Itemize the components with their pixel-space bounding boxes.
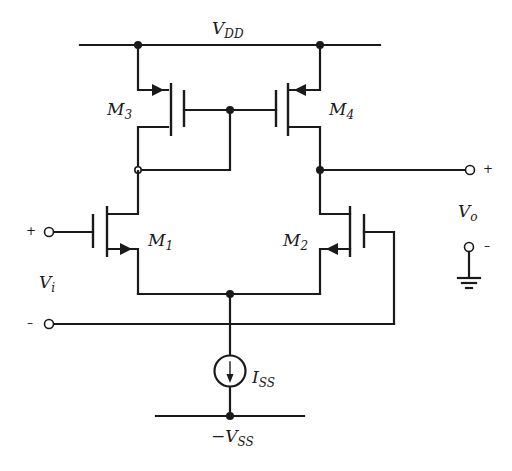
label-vi: Vi xyxy=(39,274,55,294)
sign-vo-plus: + xyxy=(483,163,493,175)
sign-vi-minus: – xyxy=(27,317,33,329)
ground-icon xyxy=(458,243,480,289)
vi-plus-terminal xyxy=(45,228,54,237)
circuit-diagram: VDD M3 M4 M1 M2 Vi Vo ISS −VSS + – + – xyxy=(0,0,512,471)
transistor-m3 xyxy=(138,45,276,171)
label-iss: ISS xyxy=(252,369,275,389)
label-vo: Vo xyxy=(458,203,478,223)
label-vss: −VSS xyxy=(211,428,254,448)
label-m4: M4 xyxy=(329,101,354,121)
label-m1: M1 xyxy=(148,232,173,252)
transistor-m2 xyxy=(320,170,394,324)
sign-vo-minus: – xyxy=(484,240,490,252)
vo-plus-terminal xyxy=(466,166,475,175)
label-m2: M2 xyxy=(283,232,308,252)
label-m3: M3 xyxy=(107,101,132,121)
sign-vi-plus: + xyxy=(26,225,36,237)
transistor-m4 xyxy=(276,45,320,170)
current-source-iss xyxy=(215,294,246,416)
vss-node xyxy=(226,412,234,420)
schematic-wires xyxy=(0,0,512,471)
transistor-m1 xyxy=(55,171,138,294)
vi-minus-terminal xyxy=(45,320,54,329)
label-vdd: VDD xyxy=(212,20,244,40)
